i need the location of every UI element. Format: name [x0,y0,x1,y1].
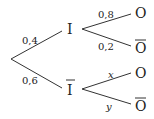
prob-label-I-O-bar: 0,2 [98,41,114,52]
prob-label-I-bar-O-bar: y [105,101,112,112]
node-I-bar: I [67,82,73,98]
leaf-I-bar-O: O [135,65,146,81]
leaf-I-O-bar: O [135,40,146,56]
leaf-I-bar-O-bar: O [135,98,146,114]
prob-label-I-bar-O: x [108,69,114,80]
prob-label-I: 0,4 [22,35,38,46]
prob-label-I-bar: 0,6 [22,75,38,86]
node-I: I [67,21,73,37]
branch-I-bar-to-O [82,73,131,89]
prob-label-I-O: 0,8 [98,9,114,20]
probability-tree: 0,4 0,6 I I 0,8 0,2 x y O O O O [0,0,154,119]
leaf-I-O: O [135,5,146,21]
